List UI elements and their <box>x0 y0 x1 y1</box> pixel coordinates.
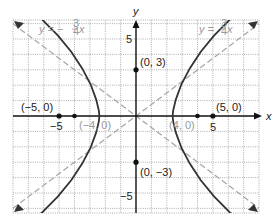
svg-text:y =: y = <box>198 23 215 35</box>
arrow-head-icon <box>248 204 258 212</box>
label-neg5-0: (−5, 0) <box>21 101 53 113</box>
tick-x-pos5: 5 <box>210 121 216 133</box>
label-0-3: (0, 3) <box>140 56 166 68</box>
tick-x-neg5: −5 <box>50 120 63 132</box>
point-5-0 <box>210 113 215 118</box>
point-0-3 <box>133 67 138 72</box>
label-0-neg3: (0, −3) <box>140 166 172 178</box>
point-neg5-0 <box>57 113 62 118</box>
x-axis-arrow <box>254 113 262 120</box>
svg-text:x: x <box>226 23 233 35</box>
label-5-0: (5, 0) <box>216 101 242 113</box>
point-neg4-0 <box>72 114 77 119</box>
svg-text:y = −: y = − <box>38 23 64 35</box>
hyperbola-chart: x y −5 5 5 −5 (0, 3) (0, −3) (−5, 0) (5,… <box>0 0 279 221</box>
tick-y-pos5: 5 <box>126 33 132 45</box>
point-4-0 <box>195 114 200 119</box>
arrow-head-icon <box>248 21 258 29</box>
point-0-neg3 <box>133 160 138 165</box>
axes <box>13 24 256 213</box>
label-4-0: (4, 0) <box>169 119 195 131</box>
y-axis-label: y <box>132 5 140 17</box>
x-axis-label: x <box>265 110 272 122</box>
svg-text:x: x <box>78 23 85 35</box>
label-neg4-0: (−4, 0) <box>79 119 111 131</box>
tick-y-neg5: −5 <box>120 190 133 202</box>
